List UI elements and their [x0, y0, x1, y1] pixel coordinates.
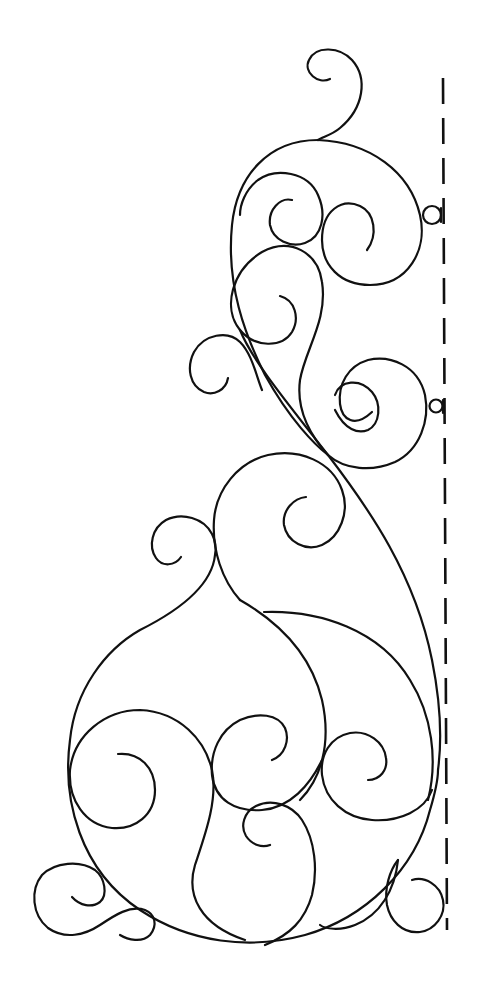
- left-outer-curve: [70, 555, 215, 740]
- bottom-left-curl: [34, 864, 154, 940]
- lower-center-swirl: [243, 803, 315, 945]
- bottom-right-curl: [386, 860, 443, 932]
- small-loop-top: [423, 206, 441, 224]
- dashed-fold-line: [443, 78, 447, 930]
- upper-left-inner-swirl: [240, 173, 322, 245]
- swirl-pattern-artwork: [0, 0, 479, 989]
- lower-right-swirl: [322, 733, 432, 821]
- left-small-curl-middle: [152, 516, 216, 564]
- upper-right-inner-swirl: [322, 204, 374, 250]
- upper-teardrop-right: [318, 140, 422, 285]
- lower-left-swirl: [70, 710, 245, 940]
- small-loop-middle: [430, 400, 443, 413]
- lower-paisley-left: [240, 600, 326, 800]
- center-swirl: [214, 453, 345, 600]
- lower-middle-upper-swirl: [212, 715, 322, 810]
- top-curl: [308, 49, 362, 140]
